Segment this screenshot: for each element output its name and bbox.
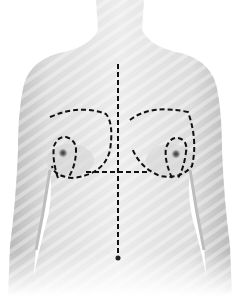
nipple-right xyxy=(171,149,181,159)
nipple-left xyxy=(58,148,68,158)
navel-mark xyxy=(116,256,121,261)
torso-diagram xyxy=(0,0,240,296)
torso-silhouette xyxy=(0,0,240,296)
